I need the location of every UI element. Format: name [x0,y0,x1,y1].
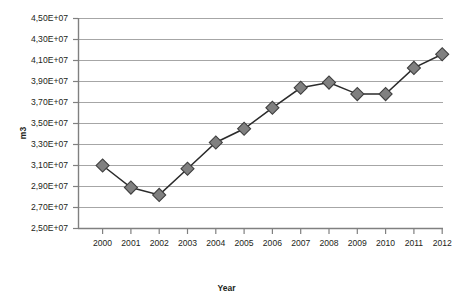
x-tick-label: 2000 [93,239,112,248]
x-tick-label: 2007 [291,239,310,248]
x-tick-label: 2012 [433,239,452,248]
x-tick-label: 2008 [319,239,338,248]
x-tick-label: 2005 [235,239,254,248]
x-tick-label: 2006 [263,239,282,248]
x-tick-label: 2009 [348,239,367,248]
line-chart: m3 4,50E+07 4,30E+07 4,10E+07 3,90E+07 3… [0,0,453,301]
x-tick-label: 2001 [121,239,140,248]
x-axis-tick-labels: 2000 2001 2002 2003 2004 2005 2006 2007 … [0,0,453,301]
x-tick-label: 2010 [376,239,395,248]
x-axis-title: Year [0,283,453,293]
x-tick-label: 2002 [150,239,169,248]
x-tick-label: 2003 [178,239,197,248]
x-tick-label: 2011 [405,239,423,248]
x-tick-label: 2004 [206,239,225,248]
